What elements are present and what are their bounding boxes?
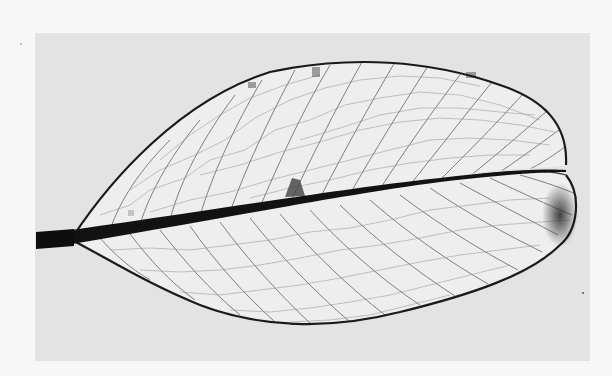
leaf-photograph	[35, 33, 590, 361]
leaf-illustration	[35, 33, 590, 361]
tip-stain	[542, 183, 578, 247]
dust-speck	[582, 292, 584, 294]
dust-speck	[20, 43, 22, 45]
petiole	[36, 229, 74, 249]
